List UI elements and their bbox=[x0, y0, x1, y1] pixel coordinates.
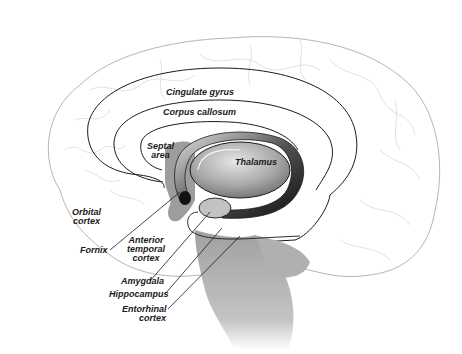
label-entorhinal-cortex: Entorhinal cortex bbox=[122, 305, 166, 323]
label-hippocampus: Hippocampus bbox=[109, 290, 169, 299]
label-entorhinal-line2: cortex bbox=[122, 314, 166, 323]
label-anterior-temporal-cortex: Anterior temporal cortex bbox=[127, 236, 165, 263]
brain-diagram bbox=[0, 0, 462, 354]
label-corpus-callosum: Corpus callosum bbox=[163, 108, 236, 117]
label-amygdala: Amygdala bbox=[121, 277, 164, 286]
label-fornix: Fornix bbox=[80, 246, 108, 255]
label-cingulate-gyrus: Cingulate gyrus bbox=[166, 88, 234, 97]
amygdala bbox=[199, 198, 231, 218]
label-orbital-cortex-line2: cortex bbox=[72, 217, 101, 226]
fornix-end bbox=[179, 191, 191, 205]
thalamus bbox=[190, 142, 290, 198]
label-thalamus: Thalamus bbox=[235, 158, 277, 167]
label-septal-area-line2: area bbox=[147, 151, 174, 160]
label-anterior-temporal-line3: cortex bbox=[127, 254, 165, 263]
label-septal-area: Septal area bbox=[147, 142, 174, 160]
label-orbital-cortex: Orbital cortex bbox=[72, 208, 101, 226]
